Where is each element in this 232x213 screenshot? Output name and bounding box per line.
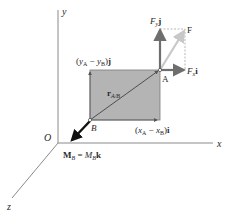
y-axis-label: y	[61, 6, 67, 17]
force-x-label: Fxi	[186, 66, 198, 77]
y-component-label: (yA − yB)j	[76, 56, 111, 67]
moment-diagram: y x z O A B (yA − yB)j (xA − xB)i rA/B F…	[0, 0, 232, 213]
force-resultant-arrow	[160, 31, 184, 70]
force-label: F	[187, 25, 192, 35]
point-A-label: A	[162, 74, 169, 84]
z-axis-label: z	[6, 201, 11, 212]
moment-label: MB = MBk	[63, 150, 101, 161]
point-B	[88, 118, 91, 121]
point-A	[158, 68, 161, 71]
force-y-label: Fyj	[149, 16, 161, 27]
moment-arrow	[72, 121, 90, 140]
force-at-A	[160, 29, 185, 70]
origin-label: O	[44, 132, 51, 143]
x-component-label: (xA − xB)i	[135, 125, 170, 136]
x-axis-label: x	[216, 138, 222, 149]
point-B-label: B	[91, 123, 97, 133]
z-axis	[12, 143, 58, 198]
